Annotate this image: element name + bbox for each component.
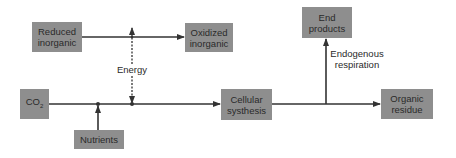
oxidized-inorganic-node: Oxidized inorganic [185, 23, 233, 52]
diagram-canvas: Reduced inorganic Oxidized inorganic End… [0, 0, 456, 158]
end-products-label: End products [309, 12, 345, 34]
cellular-synthesis-node: Cellular systhesis [221, 89, 272, 120]
co2-node: CO2 [20, 89, 49, 119]
organic-residue-label: Organic residue [390, 93, 423, 115]
cellular-synthesis-label: Cellular systhesis [227, 94, 266, 116]
endogenous-respiration-label: Endogenous respiration [330, 48, 384, 70]
co2-label: CO2 [26, 96, 44, 112]
reduced-inorganic-node: Reduced inorganic [32, 22, 82, 52]
organic-residue-node: Organic residue [381, 89, 433, 119]
energy-label: Energy [112, 64, 152, 75]
end-products-node: End products [302, 7, 352, 38]
oxidized-inorganic-label: Oxidized inorganic [190, 27, 229, 49]
nutrients-label: Nutrients [80, 134, 118, 145]
reduced-inorganic-label: Reduced inorganic [38, 26, 77, 48]
nutrients-node: Nutrients [74, 130, 124, 149]
